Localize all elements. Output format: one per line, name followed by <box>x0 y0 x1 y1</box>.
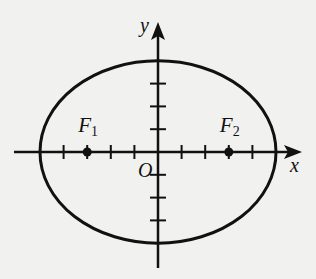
focus-label-1: F1 <box>77 113 98 139</box>
focus-point-1 <box>83 148 92 157</box>
ellipse-diagram: F1F2 x y O <box>0 0 316 279</box>
x-axis-label: x <box>289 154 299 176</box>
focus-point-2 <box>224 148 233 157</box>
origin-label: O <box>138 159 152 181</box>
focus-label-2: F2 <box>219 113 240 139</box>
axes <box>14 22 302 268</box>
y-axis-label: y <box>138 14 149 37</box>
